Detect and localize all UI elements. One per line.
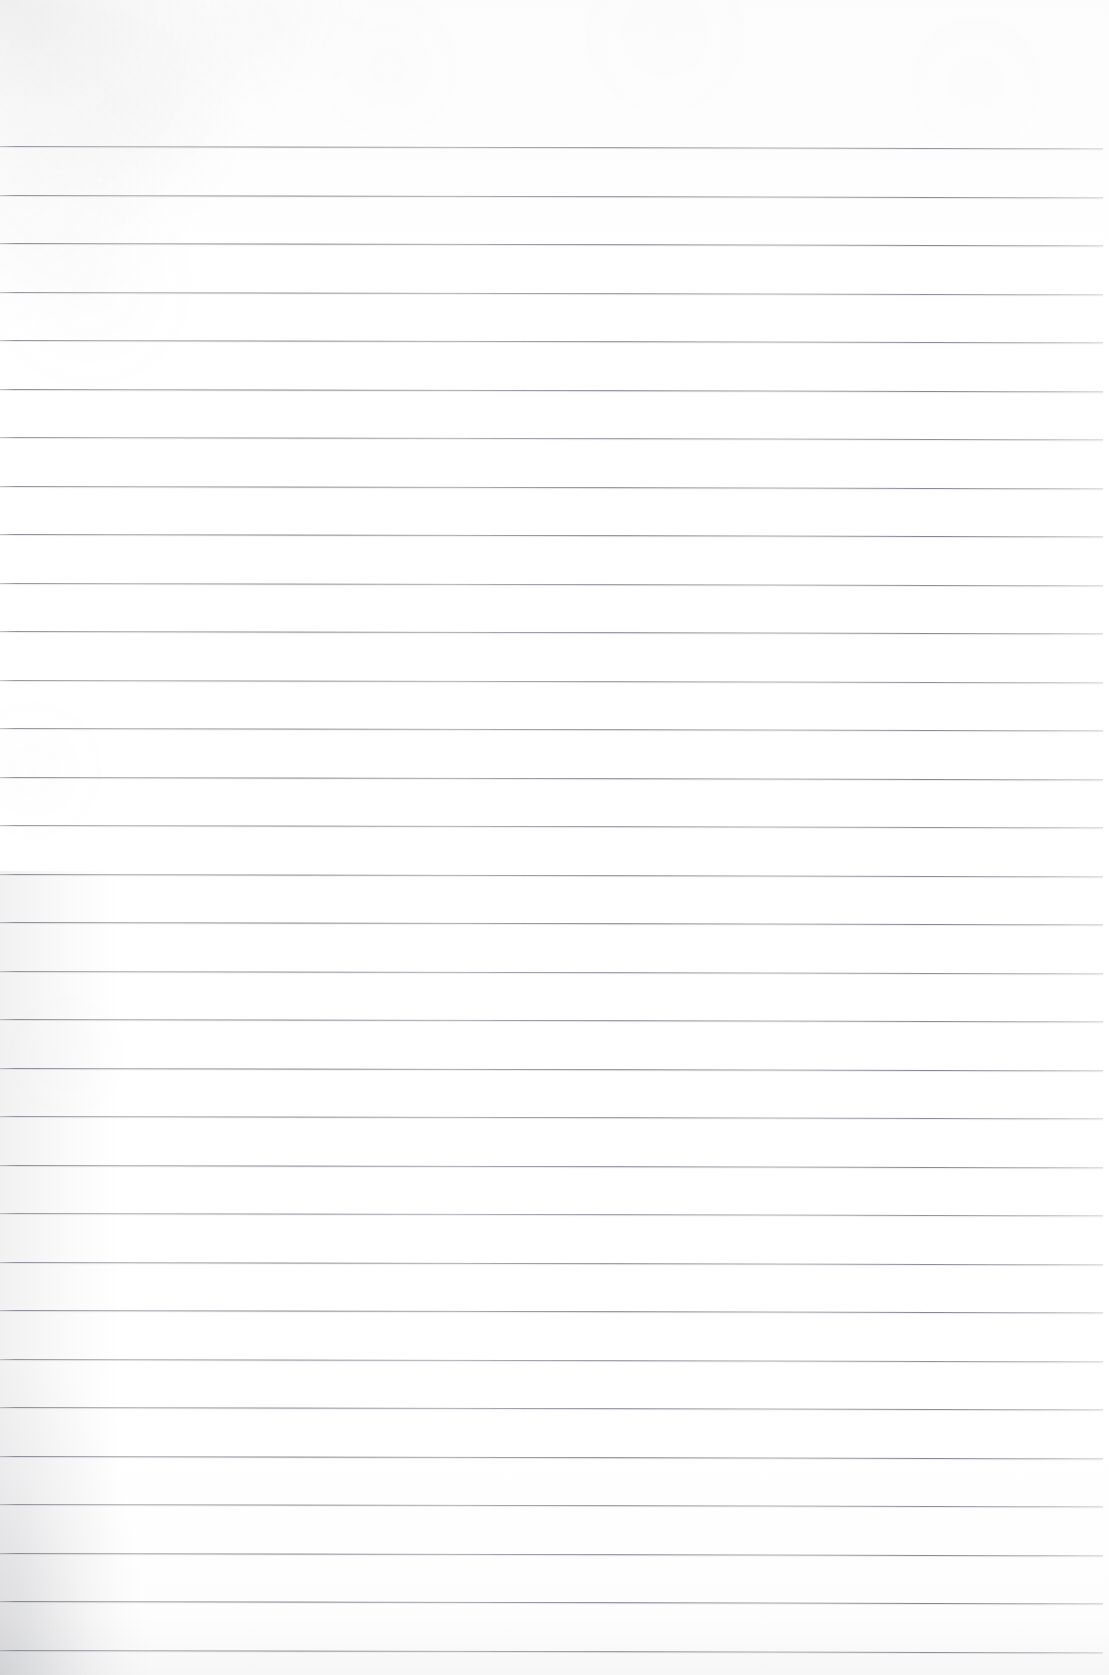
paper-background xyxy=(0,0,1109,1675)
scanned-page xyxy=(0,0,1109,1675)
